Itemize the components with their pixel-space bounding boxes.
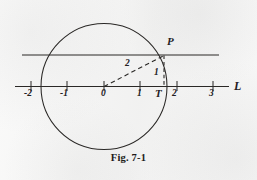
point-label-T: T	[155, 88, 162, 99]
tick-label-zero: 0	[101, 89, 106, 99]
figure-panel: -2 -1 0 1 2 3 P T 2 1 L Fig. 7-1	[0, 0, 257, 180]
segment-label-vertical: 1	[154, 68, 159, 78]
tick-label-minus2: -2	[24, 89, 32, 99]
tick-label-minus1: -1	[60, 89, 68, 99]
tick-label-two: 2	[172, 89, 177, 99]
figure-caption: Fig. 7-1	[0, 152, 257, 163]
segment-label-radius: 2	[125, 59, 130, 69]
point-label-P: P	[167, 36, 174, 47]
tick-label-three: 3	[209, 89, 214, 99]
axis-label-L: L	[234, 80, 241, 92]
tick-label-one: 1	[137, 89, 142, 99]
